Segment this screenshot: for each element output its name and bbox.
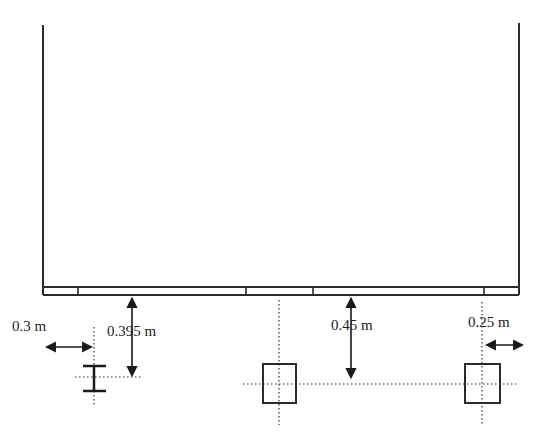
label-left-offset: 0.3 m xyxy=(12,318,47,334)
column-square-1 xyxy=(263,300,296,425)
label-i-beam-depth: 0.395 m xyxy=(107,323,157,339)
enclosure xyxy=(43,23,519,295)
label-right-offset: 0.25 m xyxy=(468,314,510,330)
diagram-canvas: 0.3 m 0.395 m 0.45 m 0.25 m xyxy=(0,0,538,438)
label-column-depth: 0.45 m xyxy=(331,317,373,333)
beam-strip xyxy=(43,287,519,295)
